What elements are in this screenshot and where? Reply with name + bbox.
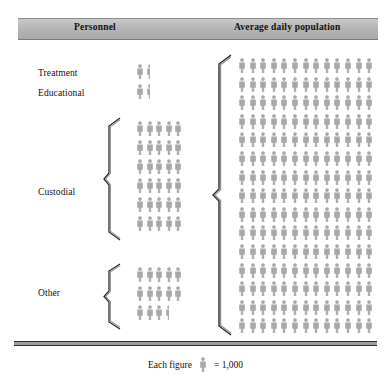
person-figure-icon	[312, 207, 320, 222]
person-figure-icon	[355, 318, 363, 333]
person-figure-icon	[333, 244, 341, 259]
person-figure-icon	[238, 207, 246, 222]
person-figure-icon	[365, 170, 373, 185]
figure-row	[238, 298, 373, 315]
person-figure-icon	[259, 58, 267, 73]
person-figure-icon	[291, 318, 299, 333]
person-figure-icon	[249, 58, 257, 73]
person-figure-icon	[333, 170, 341, 185]
person-figure-icon	[136, 159, 144, 174]
person-figure-icon	[302, 170, 310, 185]
person-figure-icon	[291, 281, 299, 296]
person-figure-icon	[312, 77, 320, 92]
person-figure-icon	[270, 318, 278, 333]
person-figure-icon	[174, 178, 182, 193]
person-figure-icon	[165, 197, 173, 212]
person-figure-icon	[323, 95, 331, 110]
person-figure-icon	[259, 188, 267, 203]
legend: Each figure = 1,000	[0, 357, 391, 372]
person-figure-icon	[155, 140, 163, 155]
person-figure-icon	[333, 300, 341, 315]
person-figure-icon	[238, 132, 246, 147]
person-figure-icon	[333, 114, 341, 129]
person-figure-icon	[291, 77, 299, 92]
person-figure-icon	[344, 188, 352, 203]
person-figure-icon	[312, 318, 320, 333]
person-figure-icon	[270, 95, 278, 110]
figure-row	[136, 62, 150, 79]
person-figure-icon	[238, 170, 246, 185]
person-figure-icon	[270, 225, 278, 240]
figure-row	[238, 93, 373, 110]
figure-row	[136, 176, 182, 193]
brace-average-daily-population	[212, 54, 232, 336]
person-figure-icon	[291, 207, 299, 222]
person-figure-icon	[146, 159, 154, 174]
person-figure-icon	[302, 318, 310, 333]
person-figure-icon	[323, 318, 331, 333]
person-figure-icon	[365, 132, 373, 147]
figure-row	[238, 279, 373, 296]
person-figure-icon	[280, 170, 288, 185]
person-figure-icon	[270, 170, 278, 185]
person-figure-icon	[323, 170, 331, 185]
person-figure-icon	[291, 95, 299, 110]
person-figure-icon	[333, 263, 341, 278]
figure-row	[136, 82, 150, 99]
category-label-treatment: Treatment	[38, 68, 78, 78]
person-figure-icon	[355, 151, 363, 166]
person-figure-icon	[238, 225, 246, 240]
person-figure-icon	[146, 216, 154, 231]
person-figure-icon	[259, 281, 267, 296]
brace-other	[103, 263, 121, 330]
person-figure-icon	[323, 225, 331, 240]
person-figure-icon	[333, 95, 341, 110]
person-figure-icon	[270, 132, 278, 147]
person-figure-icon	[344, 170, 352, 185]
person-figure-icon	[280, 244, 288, 259]
person-figure-icon	[333, 132, 341, 147]
person-figure-icon	[291, 188, 299, 203]
person-figure-icon	[270, 58, 278, 73]
column-header-band: Personnel Average daily population	[18, 18, 378, 40]
person-figure-icon	[323, 114, 331, 129]
person-figure-icon	[249, 132, 257, 147]
person-figure-icon	[365, 244, 373, 259]
person-figure-icon	[280, 225, 288, 240]
person-figure-icon	[249, 151, 257, 166]
person-figure-icon	[312, 132, 320, 147]
person-figure-icon	[355, 114, 363, 129]
person-figure-icon	[344, 95, 352, 110]
person-figure-icon	[238, 263, 246, 278]
figure-row	[136, 214, 182, 231]
person-figure-icon	[355, 188, 363, 203]
person-figure-icon	[136, 140, 144, 155]
figure-row	[238, 186, 373, 203]
person-figure-icon	[259, 77, 267, 92]
person-figure-icon	[365, 281, 373, 296]
figure-row	[238, 56, 373, 73]
person-figure-icon	[291, 263, 299, 278]
person-figure-icon	[302, 207, 310, 222]
person-figure-icon	[291, 170, 299, 185]
person-figure-icon	[365, 318, 373, 333]
figure-row	[238, 168, 373, 185]
person-figure-icon	[280, 318, 288, 333]
person-figure-icon	[365, 207, 373, 222]
person-figure-icon	[259, 263, 267, 278]
column-header-personnel: Personnel	[74, 22, 116, 32]
person-figure-icon	[238, 114, 246, 129]
person-figure-icon	[302, 151, 310, 166]
person-figure-icon	[136, 286, 144, 301]
person-figure-icon	[365, 300, 373, 315]
person-figure-icon	[174, 216, 182, 231]
person-figure-icon	[249, 207, 257, 222]
person-figure-icon	[165, 140, 173, 155]
person-figure-icon	[291, 225, 299, 240]
person-figure-icon	[155, 305, 163, 320]
person-figure-icon	[355, 281, 363, 296]
legend-value-label: = 1,000	[214, 360, 243, 370]
person-figure-icon	[270, 300, 278, 315]
person-figure-icon	[323, 188, 331, 203]
person-figure-icon	[291, 151, 299, 166]
